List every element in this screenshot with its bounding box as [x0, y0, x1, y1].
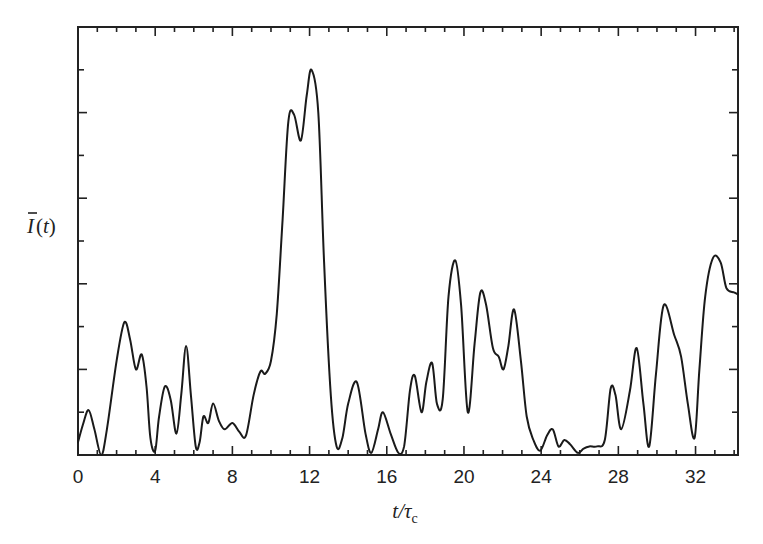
x-tick-label: 20 [453, 466, 474, 487]
y-axis-label-text: I(t) [26, 214, 56, 238]
x-tick-label: 32 [685, 466, 706, 487]
x-axis-label: t/τc [392, 499, 417, 526]
x-tick-label: 16 [376, 466, 397, 487]
intensity-time-chart: 048121620242832 t/τc I(t) [0, 0, 763, 544]
x-tick-label: 8 [227, 466, 238, 487]
x-axis-tick-labels: 048121620242832 [73, 466, 706, 487]
x-tick-label: 24 [531, 466, 553, 487]
plot-border [78, 27, 738, 455]
x-tick-label: 0 [73, 466, 84, 487]
x-tick-label: 4 [150, 466, 161, 487]
intensity-curve [78, 69, 738, 455]
x-axis-ticks [78, 27, 734, 455]
x-tick-label: 28 [608, 466, 629, 487]
y-axis-label: I(t) [26, 213, 56, 238]
x-tick-label: 12 [299, 466, 320, 487]
plot-frame [78, 27, 738, 455]
